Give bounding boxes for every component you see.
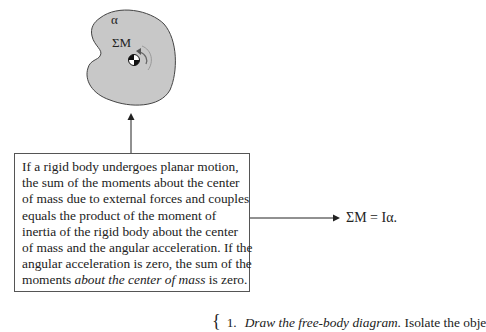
procedure-step-1: {1.Draw the free-body diagram. Isolate t…: [212, 311, 486, 332]
sum-moments-label: ΣM: [112, 35, 131, 51]
step-number: 1.: [227, 315, 237, 330]
step-text: Isolate the obje: [401, 315, 486, 330]
callout-line: the sum of the moments about the center: [22, 175, 249, 191]
callout-line-last: moments about the center of mass is zero…: [22, 272, 249, 288]
step-title: Draw the free-body diagram.: [245, 315, 401, 330]
step-brace: {: [212, 311, 221, 331]
callout-line: equals the product of the moment of: [22, 208, 249, 224]
callout-line: inertia of the rigid body about the cent…: [22, 224, 249, 240]
callout-line: If a rigid body undergoes planar motion,: [22, 159, 249, 175]
arrow-right-icon: [333, 215, 340, 222]
arrow-up-icon: [128, 113, 135, 120]
center-of-mass-icon: [129, 55, 140, 66]
alpha-label: α: [111, 12, 118, 28]
explanation-callout: If a rigid body undergoes planar motion,…: [14, 153, 250, 292]
moment-equation: ΣM = Iα.: [346, 210, 397, 226]
callout-text: moments: [22, 272, 74, 287]
callout-line: of mass and the angular acceleration. If…: [22, 240, 249, 256]
callout-line: angular acceleration is zero, the sum of…: [22, 256, 249, 272]
callout-emphasis: about the center of mass: [74, 272, 205, 287]
callout-text: is zero.: [205, 272, 247, 287]
callout-line: of mass due to external forces and coupl…: [22, 191, 249, 207]
